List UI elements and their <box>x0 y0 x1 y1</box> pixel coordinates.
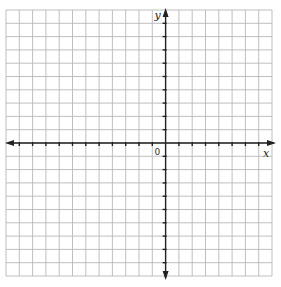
y-axis-label: y <box>154 9 162 22</box>
origin-label: 0 <box>155 147 161 157</box>
x-axis-label: x <box>263 147 270 160</box>
x-axis-right-arrow-icon <box>267 140 276 146</box>
y-axis-up-arrow-icon <box>163 8 169 17</box>
coordinate-plane: x y 0 <box>0 0 281 287</box>
y-axis-down-arrow-icon <box>163 271 169 280</box>
